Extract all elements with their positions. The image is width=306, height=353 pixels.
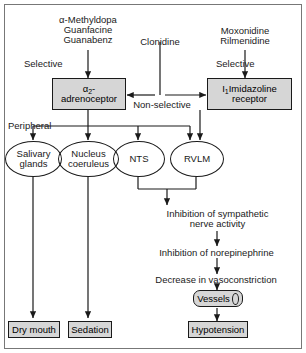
target-nucleus-coeruleus[interactable]: Nucleus coeruleus — [58, 141, 119, 177]
diagram-frame — [4, 4, 302, 349]
outcome-dry-mouth[interactable]: Dry mouth — [8, 321, 60, 338]
drug-group-alpha2-agonists: α-Methyldopa Guanfacine Guanabenz — [36, 12, 140, 48]
vessels-node[interactable]: Vessels — [193, 290, 243, 307]
receptor-alpha2-subscript: 2 — [88, 88, 92, 95]
receptor-alpha2-label: adrenoceptor — [61, 94, 117, 104]
drug-group-imidazoline-agonists: Moxonidine Rilmenidine — [199, 24, 291, 48]
drug-clonidine: Clonidine — [128, 36, 192, 48]
label-selective-left: Selective — [24, 58, 80, 70]
receptor-imidazoline-box[interactable]: I1 Imidazoline receptor — [207, 78, 292, 110]
cascade-step-1: Inhibition of sympathetic nerve activity — [145, 207, 290, 231]
diagram-canvas: α-Methyldopa Guanfacine Guanabenz Clonid… — [0, 0, 306, 353]
label-non-selective: Non-selective — [129, 99, 195, 111]
outcome-hypotension[interactable]: Hypotension — [188, 321, 248, 338]
outcome-sedation[interactable]: Sedation — [68, 321, 112, 338]
target-rvlm[interactable]: RVLM — [170, 141, 224, 177]
label-selective-right: Selective — [216, 58, 276, 70]
blood-vessel-icon — [232, 293, 239, 305]
cascade-step-3: Decrease in vasoconstriction — [137, 274, 295, 286]
receptor-alpha2-box[interactable]: α2- adrenoceptor — [52, 78, 126, 110]
receptor-i1-label: receptor — [232, 94, 267, 104]
target-salivary-glands[interactable]: Salivary glands — [5, 141, 62, 177]
target-nts[interactable]: NTS — [113, 141, 165, 177]
vessels-label: Vessels — [197, 294, 230, 304]
label-peripheral: Peripheral — [8, 120, 62, 132]
cascade-step-2: Inhibition of norepinephrine — [139, 247, 294, 259]
receptor-i1-subscript: 1 — [225, 88, 229, 95]
